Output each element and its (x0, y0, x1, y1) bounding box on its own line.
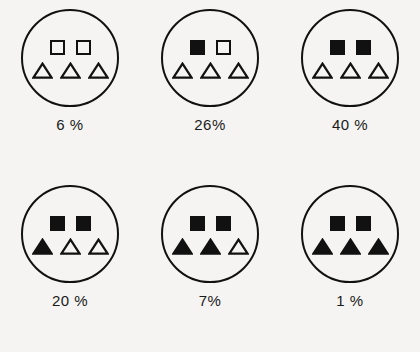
triangle-row (172, 62, 249, 79)
square-row (330, 40, 371, 55)
square-filled-icon (50, 216, 65, 231)
triangle-outline-icon (228, 62, 249, 79)
triangle-row (32, 62, 109, 79)
square-row (50, 40, 91, 55)
triangle-outline-icon (32, 62, 53, 79)
triangle-outline-icon (60, 62, 81, 79)
square-outline-icon (76, 40, 91, 55)
icon-cell: 1 % (280, 176, 420, 352)
percentage-label: 20 % (52, 292, 88, 309)
circle-outline-icon (161, 9, 259, 107)
triangle-filled-icon (312, 238, 333, 255)
circle-outline-icon (21, 185, 119, 283)
square-row (190, 216, 231, 231)
percentage-label: 1 % (336, 292, 363, 309)
percentage-label: 7% (199, 292, 222, 309)
triangle-outline-icon (88, 62, 109, 79)
square-filled-icon (216, 216, 231, 231)
square-filled-icon (330, 40, 345, 55)
triangle-outline-icon (368, 62, 389, 79)
triangle-outline-icon (88, 238, 109, 255)
triangle-filled-icon (340, 238, 361, 255)
icon-grid: 6 %26%40 %20 %7%1 % (0, 0, 420, 352)
icon-cell: 6 % (0, 0, 140, 176)
triangle-row (312, 62, 389, 79)
triangle-filled-icon (200, 238, 221, 255)
triangle-outline-icon (200, 62, 221, 79)
percentage-label: 6 % (56, 116, 83, 133)
icon-cell: 20 % (0, 176, 140, 352)
icon-cell: 26% (140, 0, 280, 176)
triangle-row (32, 238, 109, 255)
triangle-outline-icon (340, 62, 361, 79)
triangle-row (312, 238, 389, 255)
triangle-filled-icon (32, 238, 53, 255)
triangle-outline-icon (60, 238, 81, 255)
square-filled-icon (190, 40, 205, 55)
triangle-row (172, 238, 249, 255)
circle-outline-icon (301, 185, 399, 283)
triangle-outline-icon (312, 62, 333, 79)
circle-outline-icon (161, 185, 259, 283)
square-filled-icon (76, 216, 91, 231)
triangle-filled-icon (172, 238, 193, 255)
triangle-outline-icon (228, 238, 249, 255)
square-row (330, 216, 371, 231)
square-row (50, 216, 91, 231)
triangle-outline-icon (172, 62, 193, 79)
square-outline-icon (216, 40, 231, 55)
shape-fill-proportion-figure: 6 %26%40 %20 %7%1 % (0, 0, 420, 352)
square-row (190, 40, 231, 55)
square-filled-icon (356, 216, 371, 231)
icon-cell: 40 % (280, 0, 420, 176)
square-filled-icon (330, 216, 345, 231)
circle-outline-icon (301, 9, 399, 107)
square-outline-icon (50, 40, 65, 55)
icon-cell: 7% (140, 176, 280, 352)
percentage-label: 40 % (332, 116, 368, 133)
square-filled-icon (356, 40, 371, 55)
circle-outline-icon (21, 9, 119, 107)
triangle-filled-icon (368, 238, 389, 255)
percentage-label: 26% (194, 116, 226, 133)
square-filled-icon (190, 216, 205, 231)
